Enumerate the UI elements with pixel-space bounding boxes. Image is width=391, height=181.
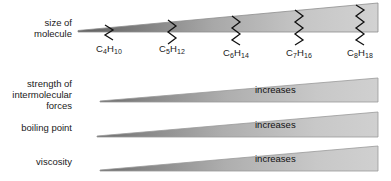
viscosity-increases-caption: increases [255,153,296,164]
diagram-canvas: size of molecule strength of intermolecu… [0,0,391,181]
formula-c5h12: C5H12 [145,43,199,54]
wedge-graphics [0,0,391,181]
size-of-molecule-wedge [78,3,378,32]
viscosity-wedge [100,146,378,171]
forces-increases-caption: increases [255,84,296,95]
forces-wedge [100,78,378,102]
formula-c8h18: C8H18 [333,47,387,58]
formula-c7h16: C7H16 [272,47,326,58]
boiling-point-increases-caption: increases [255,119,296,130]
formula-c6h14: C6H14 [209,47,263,58]
formula-c4h10: C4H10 [82,43,136,54]
boiling-point-wedge [97,112,378,137]
